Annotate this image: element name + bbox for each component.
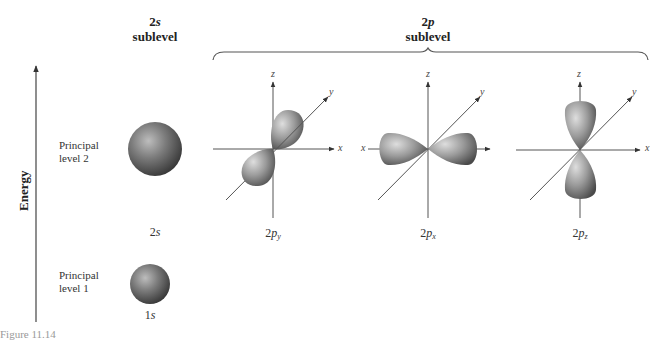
orbital-1s-letter: s bbox=[151, 308, 156, 322]
level-1-line2: level 1 bbox=[59, 282, 99, 295]
figure-caption: Figure 11.14 bbox=[0, 328, 56, 340]
pz-z-axis-label: z bbox=[577, 68, 581, 79]
orbital-2s-label: 2s bbox=[135, 225, 175, 240]
py-x-axis-label: x bbox=[338, 142, 342, 153]
p-sublevel-header: 2p sublevel bbox=[403, 14, 453, 44]
p-sublevel-letter: p bbox=[428, 14, 435, 29]
orbital-1s-sphere bbox=[130, 264, 170, 304]
level-2-line1: Principal bbox=[59, 139, 99, 152]
level-2-line2: level 2 bbox=[59, 152, 99, 165]
orbital-2py bbox=[213, 82, 334, 218]
orbital-1s-label: 1s bbox=[130, 308, 170, 323]
orbital-2px bbox=[368, 82, 490, 218]
energy-label: Energy bbox=[16, 171, 32, 211]
px-y-axis-label: y bbox=[480, 86, 484, 97]
s-sublevel-header: 2s sublevel bbox=[130, 14, 180, 44]
pz-y-axis-label: y bbox=[632, 86, 636, 97]
p-sublevel-word: sublevel bbox=[403, 29, 453, 44]
level-1-line1: Principal bbox=[59, 269, 99, 282]
orbital-2px-label: 2px bbox=[408, 226, 448, 241]
principal-level-1-label: Principal level 1 bbox=[59, 269, 99, 295]
orbital-2pz-label: 2pz bbox=[560, 226, 600, 241]
px-z-axis-label: z bbox=[426, 68, 430, 79]
orbital-2s-sphere bbox=[128, 122, 182, 176]
px-x-axis-label: x bbox=[361, 142, 365, 153]
py-z-axis-label: z bbox=[271, 68, 275, 79]
orbital-2pz-subscript: z bbox=[584, 232, 587, 241]
principal-level-2-label: Principal level 2 bbox=[59, 139, 99, 165]
pz-x-axis-label: x bbox=[645, 142, 649, 153]
py-y-axis-label: y bbox=[329, 86, 333, 97]
p-sublevel-brace bbox=[213, 48, 648, 60]
orbital-2pz bbox=[516, 82, 640, 218]
orbital-2py-label: 2py bbox=[253, 226, 293, 241]
orbital-2py-subscript: y bbox=[277, 232, 281, 241]
orbital-2s-letter: s bbox=[156, 225, 161, 239]
orbital-2px-subscript: x bbox=[432, 232, 436, 241]
s-sublevel-letter: s bbox=[156, 14, 161, 29]
s-sublevel-word: sublevel bbox=[130, 29, 180, 44]
